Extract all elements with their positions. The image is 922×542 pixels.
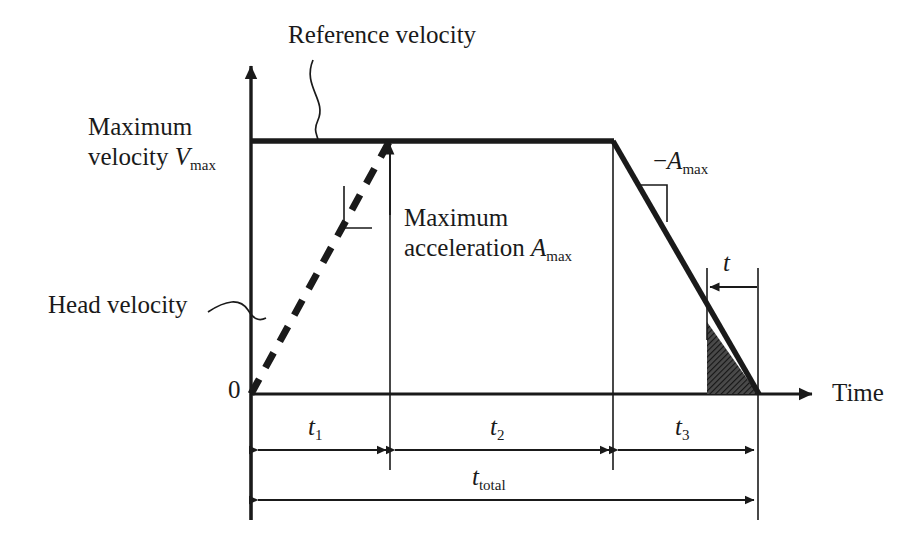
t2-dimension-label: t2 [490,412,504,442]
max-velocity-line2-prefix: velocity [88,143,175,170]
velocity-profile-figure: Reference velocity Maximum velocity Vmax… [0,0,922,542]
dimension-arrows [258,450,754,500]
t2-symbol: t [490,413,497,440]
max-acceleration-subscript: max [546,248,572,264]
head-velocity-curve [251,142,389,394]
ttotal-subscript: total [479,477,506,493]
max-velocity-label: Maximum velocity Vmax [88,112,216,171]
reference-velocity-leader [310,60,320,140]
axis-group [251,66,812,520]
neg-acceleration-subscript: max [682,161,708,177]
ttotal-symbol: t [472,463,479,490]
t1-subscript: 1 [315,427,323,443]
max-acceleration-line2: acceleration Amax [404,233,572,263]
head-velocity-leader [208,302,266,320]
t1-dimension-label: t1 [308,412,322,442]
ttotal-dimension-label: ttotal [472,462,506,492]
neg-acceleration-label: −Amax [653,146,708,176]
deceleration-segment [613,141,759,394]
max-velocity-subscript: max [190,157,216,173]
acceleration-slope-marker [344,186,372,228]
neg-acceleration-symbol: A [667,147,682,174]
max-velocity-line1: Maximum [88,112,216,142]
remaining-time-label: t [723,248,730,278]
reference-velocity-curve [251,141,759,394]
x-axis-time-label: Time [832,378,884,408]
origin-zero-label: 0 [228,375,241,405]
t3-dimension-label: t3 [675,412,689,442]
head-velocity-label: Head velocity [48,290,188,320]
max-velocity-line2: velocity Vmax [88,142,216,172]
diagram-canvas [0,0,922,542]
t2-subscript: 2 [497,427,505,443]
t3-subscript: 3 [682,427,690,443]
neg-acceleration-prefix: − [653,147,667,174]
reference-velocity-label: Reference velocity [288,20,476,50]
max-acceleration-line1: Maximum [404,203,572,233]
t3-symbol: t [675,413,682,440]
max-acceleration-line2-prefix: acceleration [404,234,531,261]
max-acceleration-symbol: A [531,234,546,261]
max-velocity-symbol: V [175,143,190,170]
t1-symbol: t [308,413,315,440]
max-acceleration-label: Maximum acceleration Amax [404,203,572,262]
